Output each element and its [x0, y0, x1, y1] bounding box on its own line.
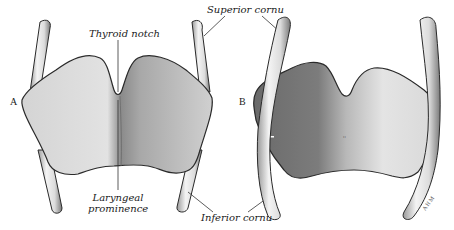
panel-label-b: B — [239, 96, 246, 107]
thyroid-lamina-b — [254, 62, 439, 178]
label-inferior-cornu: Inferior cornu — [201, 212, 272, 223]
thyroid-cartilage-diagram: :: — [0, 0, 454, 230]
leader-inferior-cornu-a — [188, 192, 213, 212]
panel-b-posterior-view: :: — [254, 17, 440, 219]
svg-text:::: :: — [343, 134, 346, 139]
label-superior-cornu: Superior cornu — [207, 4, 284, 15]
label-thyroid-notch: Thyroid notch — [89, 28, 160, 39]
label-laryngeal-prominence-line1: Laryngeal — [88, 192, 148, 203]
leader-superior-cornu-a — [204, 16, 225, 36]
panel-label-a: A — [10, 96, 17, 107]
thyroid-lamina-a — [22, 56, 212, 175]
label-laryngeal-prominence-line2: prominence — [88, 203, 148, 214]
panel-a-anterior-view — [22, 20, 212, 213]
label-laryngeal-prominence: Laryngeal prominence — [88, 192, 148, 214]
